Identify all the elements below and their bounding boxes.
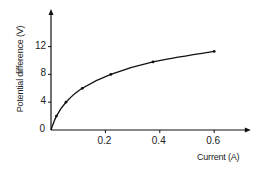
- y-axis-label: Potential difference (V): [15, 26, 25, 113]
- data-point-marker: [55, 115, 58, 118]
- x-axis-arrow-icon: [245, 128, 251, 133]
- y-tick-label: 0: [39, 123, 45, 134]
- data-curve: [51, 51, 214, 130]
- y-tick-label: 8: [40, 67, 46, 78]
- data-point-marker: [109, 73, 112, 76]
- data-point-marker: [81, 87, 84, 90]
- y-tick-label: 4: [40, 95, 46, 106]
- x-tick-label: 0.2: [97, 135, 111, 146]
- data-point-marker: [213, 50, 216, 53]
- plot-svg: [0, 0, 256, 172]
- y-axis-arrow-icon: [49, 9, 54, 15]
- x-tick-label: 0.4: [152, 135, 166, 146]
- chart-area: Potential difference (V) Current (A) 0.2…: [0, 0, 256, 172]
- data-point-marker: [65, 101, 68, 104]
- x-tick-label: 0.6: [206, 135, 220, 146]
- y-tick-label: 12: [35, 40, 46, 51]
- data-point-marker: [152, 60, 155, 63]
- x-axis-label: Current (A): [197, 152, 239, 162]
